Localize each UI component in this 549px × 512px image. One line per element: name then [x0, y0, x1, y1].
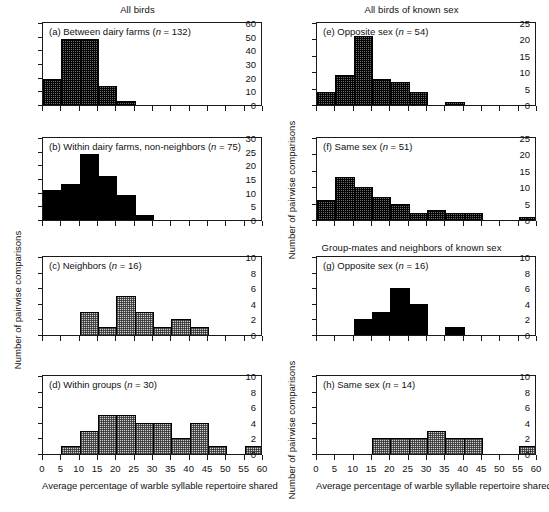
x-tick-mark-e-45 — [481, 106, 482, 111]
x-tick-label-h-0: 0 — [313, 463, 318, 474]
x-tick-mark-c-45 — [207, 336, 208, 341]
y-tick-label-g-2: 2 — [525, 314, 530, 325]
bar-f-5-10 — [335, 177, 354, 220]
x-tick-mark-h-60 — [536, 455, 537, 460]
histogram-figure: All birds All birds of known sex Group-m… — [0, 0, 549, 512]
bar-d-20-25 — [116, 415, 135, 454]
bar-b-25-30 — [135, 215, 154, 220]
x-tick-mark-f-15 — [371, 221, 372, 226]
bar-f-30-35 — [427, 210, 446, 220]
x-tick-label-d-50: 50 — [220, 463, 231, 474]
bar-g-25-30 — [409, 304, 428, 335]
x-tick-label-d-40: 40 — [183, 463, 194, 474]
x-tick-label-h-40: 40 — [457, 463, 468, 474]
y-tick-mark-f-15 — [312, 171, 316, 172]
bar-b-10-15 — [80, 154, 99, 220]
bar-d-15-20 — [98, 415, 117, 454]
x-tick-label-h-35: 35 — [439, 463, 450, 474]
y-tick-mark-g-4 — [312, 304, 316, 305]
x-tick-mark-h-50 — [499, 455, 500, 460]
x-tick-mark-a-55 — [244, 106, 245, 111]
bar-d-40-45 — [190, 423, 209, 454]
y-tick-label-f-5: 5 — [525, 198, 530, 209]
bar-f-20-25 — [390, 204, 409, 220]
x-tick-mark-g-25 — [408, 336, 409, 341]
bar-d-10-15 — [80, 431, 99, 454]
y-tick-label-f-0: 0 — [525, 215, 530, 226]
x-tick-mark-d-35 — [170, 455, 171, 460]
bar-h-25-30 — [409, 438, 428, 454]
bar-e-15-20 — [372, 79, 391, 105]
y-tick-mark-a-10 — [38, 91, 42, 92]
x-tick-mark-h-15 — [371, 455, 372, 460]
x-tick-mark-f-20 — [389, 221, 390, 226]
y-tick-label-e-5: 5 — [525, 83, 530, 94]
y-tick-label-a-50: 50 — [245, 31, 256, 42]
y-tick-label-h-10: 10 — [519, 371, 530, 382]
y-tick-mark-d-4 — [38, 423, 42, 424]
x-tick-mark-a-5 — [60, 106, 61, 111]
bar-f-25-30 — [409, 213, 428, 220]
y-tick-mark-c-2 — [38, 319, 42, 320]
x-tick-mark-c-55 — [244, 336, 245, 341]
y-tick-mark-b-30 — [38, 138, 42, 139]
y-tick-label-d-10: 10 — [245, 371, 256, 382]
bar-f-15-20 — [372, 197, 391, 220]
x-tick-mark-g-15 — [371, 336, 372, 341]
x-tick-mark-d-25 — [134, 455, 135, 460]
column-title-all-birds-known-sex: All birds of known sex — [274, 4, 549, 15]
bar-d-25-30 — [135, 423, 154, 454]
y-tick-label-a-30: 30 — [245, 59, 256, 70]
y-tick-mark-c-4 — [38, 304, 42, 305]
y-tick-mark-a-60 — [38, 23, 42, 24]
y-tick-label-g-6: 6 — [525, 283, 530, 294]
x-tick-mark-b-10 — [79, 221, 80, 226]
x-tick-mark-a-30 — [152, 106, 153, 111]
bar-c-35-40 — [171, 319, 190, 335]
x-tick-mark-d-20 — [115, 455, 116, 460]
x-tick-mark-f-35 — [444, 221, 445, 226]
y-tick-mark-c-6 — [38, 288, 42, 289]
bar-f-10-15 — [354, 187, 373, 220]
y-tick-mark-h-4 — [312, 423, 316, 424]
y-axis-title-right-top: Number of pairwise comparisons — [286, 121, 297, 259]
x-tick-mark-a-35 — [170, 106, 171, 111]
bar-e-0-5 — [317, 92, 336, 105]
x-tick-mark-a-40 — [189, 106, 190, 111]
x-tick-mark-g-45 — [481, 336, 482, 341]
x-tick-mark-e-5 — [334, 106, 335, 111]
x-tick-label-h-50: 50 — [494, 463, 505, 474]
y-tick-label-e-20: 20 — [519, 34, 530, 45]
y-tick-mark-e-20 — [312, 39, 316, 40]
y-tick-label-f-10: 10 — [519, 182, 530, 193]
x-tick-mark-g-50 — [499, 336, 500, 341]
x-tick-label-h-60: 60 — [531, 463, 542, 474]
x-tick-mark-f-30 — [426, 221, 427, 226]
bar-a-0-5 — [43, 79, 62, 105]
x-tick-mark-d-5 — [60, 455, 61, 460]
y-tick-mark-h-6 — [312, 407, 316, 408]
x-tick-label-d-35: 35 — [165, 463, 176, 474]
bar-d-45-50 — [208, 446, 227, 454]
x-tick-mark-a-20 — [115, 106, 116, 111]
y-tick-mark-b-5 — [38, 206, 42, 207]
x-tick-mark-a-0 — [42, 106, 43, 111]
x-tick-mark-d-15 — [97, 455, 98, 460]
x-tick-mark-b-0 — [42, 221, 43, 226]
bar-b-20-25 — [116, 195, 135, 220]
x-tick-label-h-25: 25 — [402, 463, 413, 474]
x-tick-mark-h-25 — [408, 455, 409, 460]
x-tick-mark-c-40 — [189, 336, 190, 341]
y-tick-mark-g-6 — [312, 288, 316, 289]
y-tick-mark-e-5 — [312, 89, 316, 90]
x-tick-mark-d-50 — [225, 455, 226, 460]
x-tick-label-d-0: 0 — [39, 463, 44, 474]
y-tick-label-e-15: 15 — [519, 50, 530, 61]
x-tick-label-d-15: 15 — [92, 463, 103, 474]
y-tick-label-h-4: 4 — [525, 417, 530, 428]
x-tick-mark-e-50 — [499, 106, 500, 111]
x-tick-mark-h-40 — [463, 455, 464, 460]
x-tick-mark-c-25 — [134, 336, 135, 341]
y-tick-label-b-25: 25 — [245, 146, 256, 157]
bar-e-25-30 — [409, 92, 428, 105]
